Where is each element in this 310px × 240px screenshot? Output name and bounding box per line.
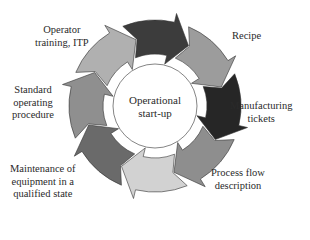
label-manufacturing-tickets: Manufacturing tickets bbox=[230, 100, 292, 125]
label-operator-training: Operator training, ITP bbox=[35, 24, 89, 49]
label-recipe: Recipe bbox=[232, 30, 261, 43]
label-sop: Standard operating procedure bbox=[12, 84, 54, 122]
label-process-flow: Process flow description bbox=[211, 167, 265, 192]
center-label: Operational start-up bbox=[118, 94, 192, 120]
center-label-line1: Operational bbox=[118, 94, 192, 107]
center-label-line2: start-up bbox=[118, 107, 192, 120]
label-maintenance: Maintenance of equipment in a qualified … bbox=[10, 163, 76, 201]
